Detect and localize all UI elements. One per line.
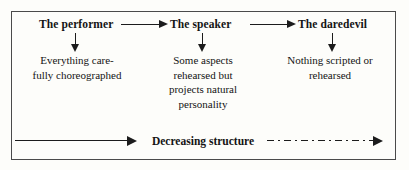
axis-solid-line	[15, 140, 128, 141]
arrow-shaft	[121, 24, 160, 25]
right-arrow-icon	[287, 20, 296, 28]
stage-description-speaker: Some aspects rehearsed but projects natu…	[143, 53, 263, 111]
stage-connector-arrow-2	[250, 20, 296, 29]
stage-heading-performer: The performer	[39, 18, 113, 30]
axis-dash-dot-line	[267, 140, 373, 141]
decreasing-structure-axis: Decreasing structure	[14, 134, 386, 148]
down-arrow-icon	[328, 44, 336, 52]
down-arrow-icon-daredevil	[328, 33, 337, 52]
down-arrow-icon-speaker	[198, 33, 207, 52]
right-arrow-icon-right-segment	[373, 136, 383, 146]
stage-heading-speaker: The speaker	[170, 18, 231, 30]
stage-connector-arrow-1	[121, 20, 168, 29]
stage-description-performer: Everything care- fully choreographed	[16, 53, 138, 82]
down-arrow-icon	[71, 44, 79, 52]
stage-description-daredevil: Nothing scripted or rehearsed	[266, 53, 394, 82]
stage-heading-daredevil: The daredevil	[298, 18, 367, 30]
down-arrow-icon	[198, 44, 206, 52]
axis-label: Decreasing structure	[142, 134, 264, 148]
right-arrow-icon	[159, 20, 168, 28]
right-arrow-icon-left-segment	[127, 136, 137, 146]
down-arrow-icon-performer	[71, 33, 80, 52]
continuum-diagram: The performer The speaker The daredevil …	[0, 0, 409, 170]
arrow-shaft	[250, 24, 288, 25]
